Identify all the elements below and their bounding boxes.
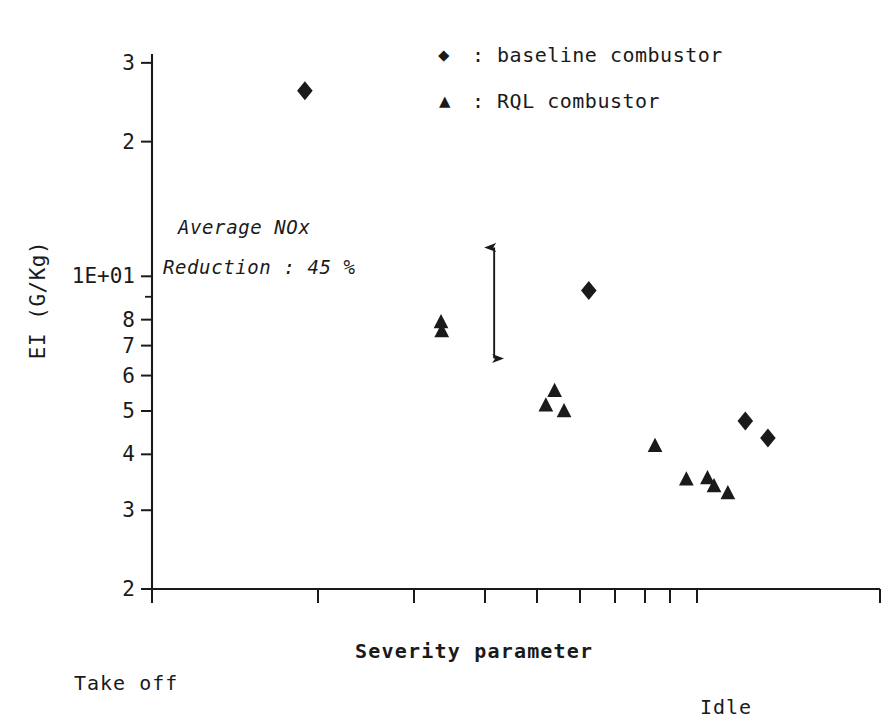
data-point-rql-combustor: [648, 438, 663, 452]
y-axis-tick-marks: [141, 63, 152, 589]
y-tick-label: 3: [0, 52, 135, 73]
y-tick-label: 3: [0, 500, 135, 521]
x-axis-left-endpoint-label: Take off: [74, 673, 178, 693]
data-point-baseline-combustor: [581, 281, 597, 300]
y-tick-label: 7: [0, 335, 135, 356]
diamond-marker-icon: ◆: [438, 45, 449, 64]
data-point-rql-combustor: [557, 403, 572, 417]
y-tick-label: 4: [0, 444, 135, 465]
data-point-rql-combustor: [720, 485, 735, 499]
annotation-line-1: Average NOx: [178, 218, 310, 237]
legend-entry-rql-combustor: : RQL combustor: [472, 91, 660, 111]
data-point-markers: [297, 81, 776, 499]
y-tick-label: 8: [0, 309, 135, 330]
chart-figure: EI (G/Kg) 321E+018765432 ◆ : baseline co…: [0, 0, 896, 725]
x-axis-right-endpoint-label: Idle: [700, 697, 752, 717]
data-point-baseline-combustor: [738, 411, 754, 430]
data-point-baseline-combustor: [760, 429, 776, 448]
annotation-line-2: Reduction : 45 %: [163, 258, 356, 277]
data-point-rql-combustor: [538, 397, 553, 411]
data-point-rql-combustor: [547, 383, 562, 397]
x-axis-title: Severity parameter: [355, 641, 593, 661]
y-tick-label: 5: [0, 400, 135, 421]
data-point-rql-combustor: [679, 471, 694, 485]
y-tick-label: 2: [0, 131, 135, 152]
axis-spines: [152, 54, 880, 589]
triangle-marker-icon: ▲: [439, 91, 450, 110]
y-tick-label: 1E+01: [0, 266, 135, 287]
y-tick-label: 2: [0, 579, 135, 600]
legend-entry-baseline-combustor: : baseline combustor: [472, 45, 723, 65]
y-tick-label: 6: [0, 365, 135, 386]
data-point-baseline-combustor: [297, 81, 313, 100]
x-axis-tick-marks: [152, 589, 880, 603]
